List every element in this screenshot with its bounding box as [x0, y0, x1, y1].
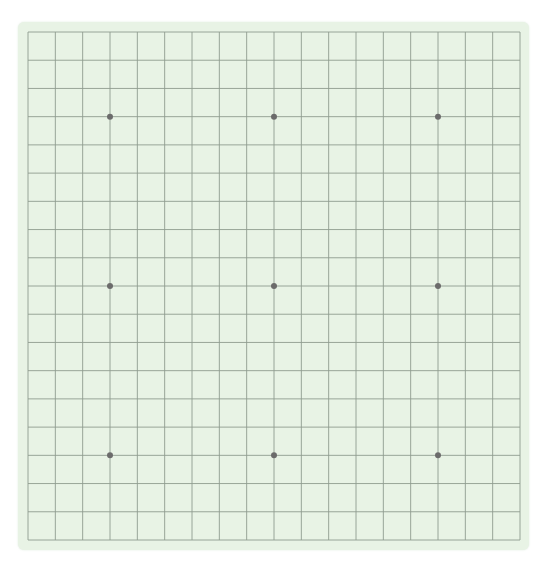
star-point-icon — [271, 452, 277, 458]
star-point-icon — [107, 452, 113, 458]
go-board[interactable] — [18, 22, 529, 550]
star-point-icon — [107, 283, 113, 289]
star-point-icon — [435, 283, 441, 289]
star-point-icon — [435, 452, 441, 458]
star-point-icon — [435, 114, 441, 120]
star-point-icon — [271, 283, 277, 289]
board-grid[interactable] — [0, 0, 546, 569]
star-point-icon — [107, 114, 113, 120]
star-point-icon — [271, 114, 277, 120]
